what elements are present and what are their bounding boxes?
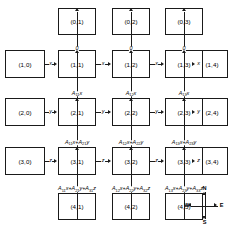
edge-h-r2-c1-arrowhead [108,110,111,114]
edge-v-r3-c2-arrowhead [129,147,133,150]
compass-label-north: N [202,186,206,192]
edge-v-r2-c2-label: A12x+A22y [118,140,144,145]
edge-h-r3-c2-arrowhead [161,159,164,163]
edge-v-r3-c2-line [131,151,132,220]
edge-h-r3-c1-label: z [101,158,105,163]
edge-v-r3-c3-arrowhead [182,147,186,150]
node-1-0: (1,0) [5,50,45,78]
compass-label-south: S [203,220,207,226]
edge-h-r3-c1-arrowhead [108,159,111,163]
edge-h-r2-c3-label: y [197,109,201,114]
node-label: (1,0) [18,61,31,68]
compass-north-arrowhead [202,192,206,195]
node-label: (3,4) [205,158,218,165]
node-2-0: (2,0) [5,98,45,126]
edge-h-r1-c2-arrowhead [161,62,164,66]
edge-v-r1-c3-label: A13x [178,91,190,96]
edge-v-r1-c2-label: A12x [125,91,137,96]
edge-v-r3-c1-arrowhead [75,147,79,150]
edge-h-r2-c0-label: y [49,109,53,114]
edge-v-r2-c3-arrowhead [182,98,186,101]
edge-v-r0-c2-arrowhead [129,8,133,11]
compass-label-east: E [220,203,224,209]
edge-h-r1-c0-arrowhead [54,62,57,66]
edge-v-r3-c1-label: A11x+A21y+A31z [57,187,96,192]
edge-v-r3-c1-line [77,151,78,220]
edge-h-r2-c0-arrowhead [54,110,57,114]
edge-h-r3-c2-label: z [155,158,159,163]
edge-v-r1-c3-arrowhead [182,50,186,53]
edge-v-r2-c2-arrowhead [129,98,133,101]
edge-h-r3-c3-label: z [197,158,201,163]
dataflow-diagram: (0,1)(0,2)(0,3)(1,0)(2,0)(3,0)(1,4)(2,4)… [0,0,231,227]
node-label: (2,0) [18,109,31,116]
node-3-0: (3,0) [5,147,45,175]
edge-v-r2-c3-label: A13x+A23y [171,140,197,145]
edge-h-r1-c0-label: x [49,61,53,66]
edge-v-r2-c1-label: A11x+A21y [64,140,89,145]
node-label: (1,4) [205,61,218,68]
edge-h-r1-c1-label: x [101,61,105,66]
compass-label-west: W [184,203,189,209]
edge-h-r1-c1-arrowhead [108,62,111,66]
edge-v-r2-c1-arrowhead [75,98,79,101]
compass-rose: NSEW [184,186,225,225]
edge-v-r3-c2-label: A12x+A22y+A32z [111,187,150,192]
compass-east-arrowhead [214,203,217,207]
edge-v-r0-c3-arrowhead [182,8,186,11]
edge-h-r2-c2-label: y [155,109,159,114]
edge-h-r3-c0-label: z [49,158,53,163]
edge-v-r1-c1-arrowhead [75,50,79,53]
edge-h-r3-c3-arrowhead [192,159,195,163]
edge-v-r1-c1-label: A11x [71,91,83,96]
edge-h-r2-c2-arrowhead [161,110,164,114]
edge-v-r0-c1-arrowhead [75,8,79,11]
node-label: (2,4) [205,109,218,116]
edge-h-r2-c3-arrowhead [192,110,195,114]
edge-h-r1-c3-arrowhead [192,62,195,66]
node-label: (3,0) [18,158,31,165]
edge-h-r3-c0-arrowhead [54,159,57,163]
edge-h-r1-c2-label: x [155,61,159,66]
edge-h-r2-c1-label: y [101,109,105,114]
edge-v-r1-c2-arrowhead [129,50,133,53]
edge-h-r1-c3-label: x [197,61,201,66]
